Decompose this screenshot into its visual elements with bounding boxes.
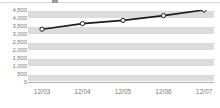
x-axis-tick-label: 12/05 bbox=[103, 88, 143, 96]
y-axis-tick-label: 4,000 bbox=[1, 15, 27, 21]
x-axis: 12/0312/0412/0512/0612/07 bbox=[28, 88, 214, 100]
top-divider bbox=[0, 2, 220, 3]
x-axis-tick-label: 12/03 bbox=[22, 88, 62, 96]
title-stub bbox=[52, 0, 58, 3]
y-axis-tick-label: 3,000 bbox=[1, 31, 27, 37]
y-axis-tick-label: 0 bbox=[1, 79, 27, 85]
data-point-marker bbox=[80, 22, 84, 26]
y-axis-tick-label: 3,500 bbox=[1, 23, 27, 29]
line-chart: 4,5004,0003,5003,0002,5002,0001,5001,000… bbox=[0, 0, 220, 108]
y-axis-tick-label: 1,500 bbox=[1, 55, 27, 61]
x-axis-tick-label: 12/06 bbox=[144, 88, 184, 96]
data-point-marker bbox=[121, 18, 125, 22]
y-axis-tick-label: 500 bbox=[1, 71, 27, 77]
series-layer bbox=[28, 10, 214, 82]
y-axis-tick-label: 2,500 bbox=[1, 39, 27, 45]
data-point-marker bbox=[202, 10, 206, 12]
x-axis-line bbox=[28, 82, 214, 83]
data-point-marker bbox=[161, 14, 165, 18]
y-axis-tick-label: 2,000 bbox=[1, 47, 27, 53]
y-axis-tick-label: 1,000 bbox=[1, 63, 27, 69]
y-axis-tick-label: 4,500 bbox=[1, 7, 27, 13]
x-axis-tick-label: 12/04 bbox=[63, 88, 103, 96]
plot-area bbox=[28, 10, 214, 82]
x-axis-tick-label: 12/07 bbox=[184, 88, 220, 96]
data-point-marker bbox=[40, 27, 44, 31]
